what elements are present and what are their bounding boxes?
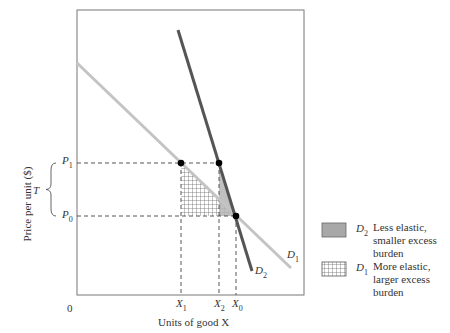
d2-curve-label: D2 — [255, 264, 267, 278]
d2-subscript: 2 — [263, 271, 267, 280]
p0-subscript: 0 — [69, 215, 73, 224]
tax-brace — [46, 163, 56, 216]
legend-key-sub: 1 — [364, 268, 368, 277]
p0-label: P0 — [62, 208, 73, 222]
legend-line: smaller excess — [373, 234, 437, 247]
x-letter: X — [232, 297, 239, 309]
legend-key-d1: D1 — [356, 261, 368, 275]
point-x1-p1 — [178, 160, 185, 167]
legend-key-d2: D2 — [356, 222, 368, 236]
legend-key-letter: D — [356, 222, 364, 234]
legend-line: More elastic, — [373, 260, 430, 273]
x-letter: X — [176, 297, 183, 309]
legend-line: larger excess — [373, 273, 430, 286]
x1-subscript: 1 — [183, 304, 187, 313]
legend-key-sub: 2 — [364, 229, 368, 238]
tax-label: T — [33, 184, 39, 196]
x1-label: X1 — [176, 297, 187, 311]
x-letter: X — [214, 297, 221, 309]
x-axis-title: Units of good X — [158, 316, 229, 328]
legend-text-d2: Less elastic, smaller excess burden — [373, 221, 437, 260]
point-x0-p0 — [233, 213, 240, 220]
d-letter: D — [287, 248, 295, 260]
legend-line: Less elastic, — [373, 221, 437, 234]
x0-label: X0 — [232, 297, 243, 311]
d2-demand-line — [178, 30, 252, 271]
legend-line: burden — [373, 286, 430, 299]
point-x2-p1 — [216, 160, 223, 167]
legend-text-d1: More elastic, larger excess burden — [373, 260, 430, 299]
legend-swatch-d1 — [322, 262, 346, 276]
p1-label: P1 — [62, 154, 73, 168]
d1-subscript: 1 — [295, 255, 299, 264]
plot-frame — [77, 10, 304, 295]
d1-demand-line — [77, 63, 291, 268]
d1-curve-label: D1 — [287, 248, 299, 262]
legend-key-letter: D — [356, 261, 364, 273]
x2-subscript: 2 — [221, 304, 225, 313]
origin-label: 0 — [67, 302, 73, 314]
legend-line: burden — [373, 247, 437, 260]
y-axis-title: Price per unit ($) — [21, 149, 33, 259]
legend-swatch-d2 — [322, 223, 346, 237]
p-letter: P — [62, 154, 69, 166]
d-letter: D — [255, 264, 263, 276]
p-letter: P — [62, 208, 69, 220]
x2-label: X2 — [214, 297, 225, 311]
p1-subscript: 1 — [69, 161, 73, 170]
x0-subscript: 0 — [239, 304, 243, 313]
